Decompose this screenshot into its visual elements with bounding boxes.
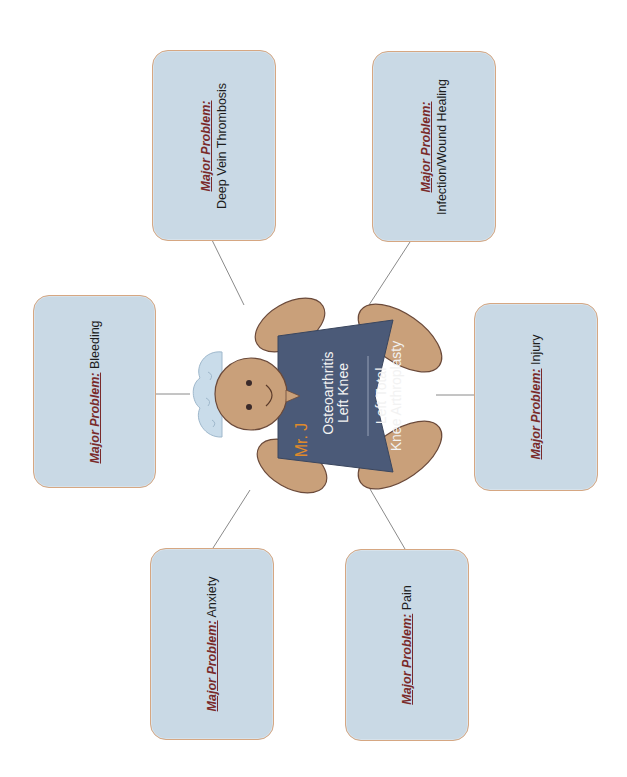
eye-icon bbox=[246, 404, 252, 410]
diagnosis-line: Left Knee bbox=[336, 351, 351, 434]
diagnosis-line: Osteoarthritis bbox=[321, 351, 336, 434]
diagnosis: Osteoarthritis Left Knee bbox=[321, 351, 351, 434]
procedure: Left Total Knee Arthroplasty bbox=[374, 341, 404, 452]
head bbox=[215, 358, 287, 430]
eye-icon bbox=[246, 380, 252, 386]
procedure-line: Left Total bbox=[374, 341, 389, 452]
patient-figure bbox=[0, 0, 627, 777]
patient-name: Mr. J bbox=[293, 423, 311, 458]
procedure-line: Knee Arthroplasty bbox=[389, 341, 404, 452]
